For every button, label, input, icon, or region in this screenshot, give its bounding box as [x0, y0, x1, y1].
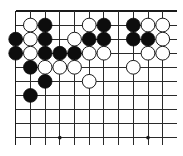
white-stone[interactable] — [82, 74, 96, 88]
black-stone[interactable] — [53, 46, 67, 60]
white-stone[interactable] — [53, 60, 67, 74]
black-stone[interactable] — [97, 18, 111, 32]
black-stone[interactable] — [126, 18, 140, 32]
white-stone[interactable] — [141, 46, 155, 60]
black-stone[interactable] — [82, 32, 96, 46]
black-stone[interactable] — [38, 74, 52, 88]
white-stone[interactable] — [82, 18, 96, 32]
black-stone[interactable] — [141, 32, 155, 46]
star-point — [58, 136, 62, 140]
white-stone[interactable] — [126, 60, 140, 74]
black-stone[interactable] — [24, 60, 38, 74]
black-stone[interactable] — [24, 89, 38, 103]
black-stone[interactable] — [97, 32, 111, 46]
go-board[interactable] — [0, 0, 183, 156]
white-stone[interactable] — [24, 46, 38, 60]
white-stone[interactable] — [24, 32, 38, 46]
black-stone[interactable] — [9, 32, 23, 46]
white-stone[interactable] — [68, 32, 82, 46]
black-stone[interactable] — [126, 32, 140, 46]
black-stone[interactable] — [38, 18, 52, 32]
black-stone[interactable] — [9, 46, 23, 60]
white-stone[interactable] — [156, 46, 170, 60]
white-stone[interactable] — [156, 32, 170, 46]
white-stone[interactable] — [156, 18, 170, 32]
white-stone[interactable] — [38, 60, 52, 74]
white-stone[interactable] — [97, 46, 111, 60]
black-stone[interactable] — [38, 32, 52, 46]
black-stone[interactable] — [38, 46, 52, 60]
star-point — [146, 136, 150, 140]
white-stone[interactable] — [24, 18, 38, 32]
black-stone[interactable] — [68, 46, 82, 60]
white-stone[interactable] — [141, 18, 155, 32]
white-stone[interactable] — [82, 46, 96, 60]
white-stone[interactable] — [68, 60, 82, 74]
